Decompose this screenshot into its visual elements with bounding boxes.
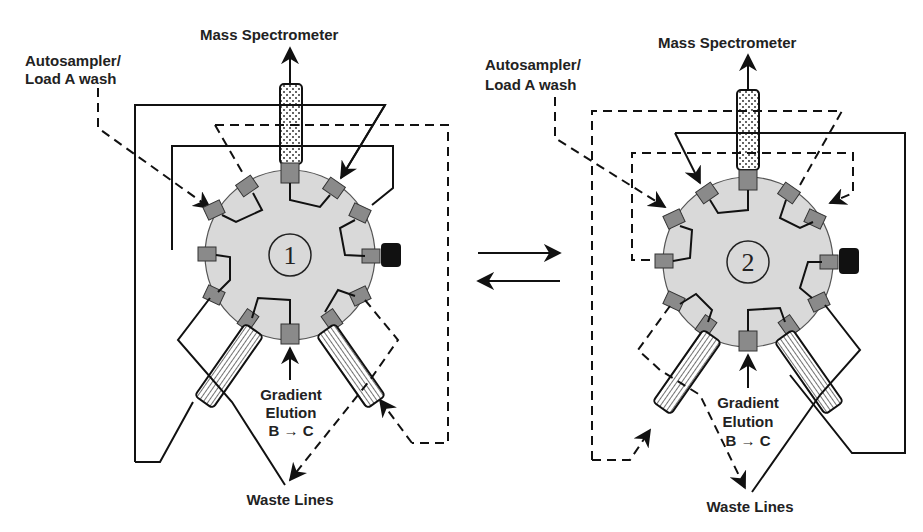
analytical-column-right: [317, 324, 385, 409]
analytical-column-right: [775, 330, 843, 415]
mass-spectrometer-label: Mass Spectrometer: [658, 34, 797, 51]
load-a-wash-label: Load A wash: [25, 70, 116, 87]
mass-spectrometer-label: Mass Spectrometer: [200, 26, 339, 43]
elution-label: Elution: [723, 413, 774, 430]
valve-number: 2: [742, 248, 755, 277]
gradient-label: Gradient: [260, 386, 322, 403]
analytical-column-left: [653, 330, 721, 415]
valve-2-group: Mass Spectrometer Autosampler/ Load A wa…: [485, 34, 905, 515]
valve-number: 1: [284, 241, 297, 270]
b-to-c-label: B → C: [269, 422, 314, 439]
autosampler-label: Autosampler/: [485, 56, 582, 73]
gradient-label: Gradient: [717, 394, 779, 411]
switch-arrows: [478, 253, 560, 281]
valve-switching-diagram: Mass Spectrometer Autosampler/ Load A wa…: [0, 0, 923, 532]
elution-label: Elution: [266, 404, 317, 421]
valve-1-group: Mass Spectrometer Autosampler/ Load A wa…: [25, 26, 448, 508]
b-to-c-label: B → C: [726, 432, 771, 449]
load-a-wash-label: Load A wash: [485, 76, 576, 93]
waste-lines-label: Waste Lines: [707, 498, 794, 515]
autosampler-label: Autosampler/: [25, 52, 122, 69]
analytical-column-left: [195, 324, 263, 409]
plug-icon: [839, 248, 859, 274]
plug-icon: [381, 243, 401, 267]
trap-column-icon: [737, 90, 759, 170]
waste-lines-label: Waste Lines: [247, 491, 334, 508]
